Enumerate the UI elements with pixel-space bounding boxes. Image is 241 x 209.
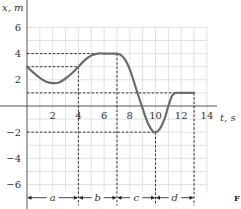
x-tick-label: 10: [149, 110, 162, 121]
y-tick-label: 4: [15, 48, 21, 59]
y-tick-label: 2: [15, 74, 21, 85]
y-tick-label: −2: [6, 127, 21, 138]
arrow-left-icon: [28, 196, 32, 200]
x-tick-label: 2: [50, 110, 56, 121]
y-tick-label: −4: [6, 153, 21, 164]
arrow-right-icon: [190, 196, 194, 200]
y-tick-label: 6: [15, 22, 21, 33]
arrow-right-icon: [112, 196, 116, 200]
arrow-right-icon: [74, 196, 78, 200]
x-tick-label: 12: [175, 110, 188, 121]
arrow-left-icon: [117, 196, 121, 200]
arrow-left-icon: [156, 196, 160, 200]
x-tick-label: 6: [101, 110, 107, 121]
interval-label: b: [94, 192, 100, 203]
interval-label: c: [133, 192, 139, 203]
interval-a: a: [28, 192, 78, 203]
y-axis-label: x, m: [2, 2, 23, 13]
x-tick-label: 4: [75, 110, 81, 121]
x-tick-label: 8: [127, 110, 133, 121]
arrow-right-icon: [151, 196, 155, 200]
interval-b: b: [79, 192, 117, 203]
interval-d: d: [156, 192, 194, 203]
arrow-left-icon: [79, 196, 83, 200]
interval-markers: abcd: [28, 192, 194, 203]
corner-fragment: F: [234, 193, 240, 203]
x-axis-label: t, s: [220, 112, 236, 123]
interval-label: d: [172, 192, 178, 203]
x-tick-label: 14: [201, 110, 214, 121]
interval-c: c: [117, 192, 155, 203]
interval-label: a: [50, 192, 56, 203]
axes: [0, 0, 217, 209]
position-time-chart: abcd 2468101214642−2−4−6 x, m t, s F: [0, 0, 241, 209]
y-tick-label: −6: [6, 179, 21, 190]
reference-lines: [27, 54, 194, 206]
